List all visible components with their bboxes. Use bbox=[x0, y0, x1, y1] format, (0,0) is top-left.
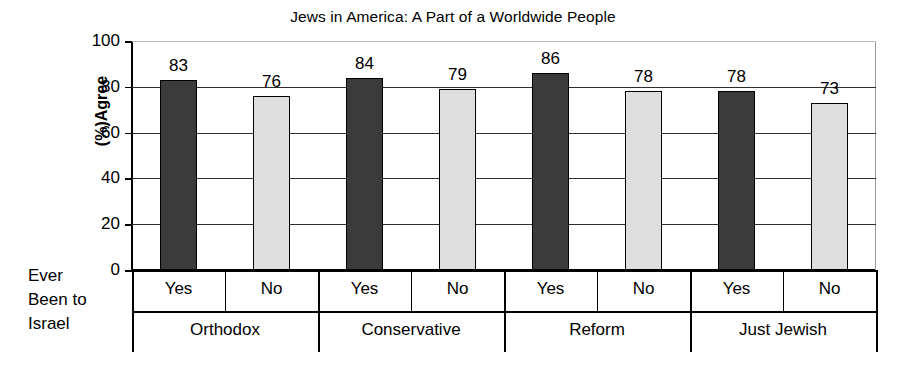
bar-orthodox-yes bbox=[160, 80, 197, 270]
gridline-80 bbox=[132, 87, 876, 88]
group-label-orthodox: Orthodox bbox=[190, 320, 260, 340]
bar-just-jewish-no bbox=[811, 103, 848, 270]
bar-just-jewish-yes bbox=[718, 91, 755, 270]
y-tick-mark-100 bbox=[125, 41, 132, 43]
cell-divider-5 bbox=[597, 270, 598, 311]
group-divider-0 bbox=[132, 270, 134, 352]
answer-label-just-jewish-no: No bbox=[819, 279, 841, 299]
cell-divider-7 bbox=[783, 270, 784, 311]
y-axis-label: (%)Agree bbox=[93, 51, 115, 171]
answer-label-orthodox-yes: Yes bbox=[165, 279, 193, 299]
bar-value-orthodox-yes: 83 bbox=[169, 56, 188, 76]
group-divider-6 bbox=[690, 270, 692, 352]
gridline-60 bbox=[132, 133, 876, 134]
cell-divider-3 bbox=[411, 270, 412, 311]
bar-value-reform-no: 78 bbox=[634, 67, 653, 87]
row-header-line-1: Ever bbox=[28, 264, 128, 288]
y-tick-mark-80 bbox=[125, 87, 132, 89]
answer-label-conservative-yes: Yes bbox=[351, 279, 379, 299]
y-tick-mark-60 bbox=[125, 133, 132, 135]
bar-value-orthodox-no: 76 bbox=[262, 72, 281, 92]
y-tick-mark-40 bbox=[125, 178, 132, 180]
y-tick-label-100: 100 bbox=[60, 31, 120, 51]
bar-conservative-yes bbox=[346, 78, 383, 270]
group-label-reform: Reform bbox=[569, 320, 625, 340]
y-tick-label-40: 40 bbox=[60, 168, 120, 188]
group-divider-2 bbox=[318, 270, 320, 352]
answer-label-conservative-no: No bbox=[447, 279, 469, 299]
chart-title: Jews in America: A Part of a Worldwide P… bbox=[0, 8, 906, 26]
bar-value-reform-yes: 86 bbox=[541, 49, 560, 69]
y-tick-mark-20 bbox=[125, 224, 132, 226]
cell-divider-1 bbox=[225, 270, 226, 311]
group-label-conservative: Conservative bbox=[361, 320, 460, 340]
row-header-ever-been-to-israel: EverBeen toIsrael bbox=[28, 264, 128, 336]
gridline-100 bbox=[132, 41, 876, 42]
category-table: YesNoYesNoYesNoYesNo OrthodoxConservativ… bbox=[132, 270, 877, 352]
bar-conservative-no bbox=[439, 89, 476, 270]
bar-value-just-jewish-no: 73 bbox=[820, 79, 839, 99]
row-header-line-3: Israel bbox=[28, 312, 128, 336]
y-tick-label-60: 60 bbox=[60, 123, 120, 143]
answer-label-reform-yes: Yes bbox=[537, 279, 565, 299]
answer-label-reform-no: No bbox=[633, 279, 655, 299]
group-label-just-jewish: Just Jewish bbox=[739, 320, 827, 340]
gridline-40 bbox=[132, 178, 876, 179]
bar-value-just-jewish-yes: 78 bbox=[727, 67, 746, 87]
plot-right-border bbox=[875, 41, 876, 270]
plot-area: 8376847986787873 bbox=[132, 41, 876, 270]
bar-reform-no bbox=[625, 91, 662, 270]
row-header-line-2: Been to bbox=[28, 288, 128, 312]
gridline-20 bbox=[132, 224, 876, 225]
group-divider-4 bbox=[504, 270, 506, 352]
y-tick-label-20: 20 bbox=[60, 214, 120, 234]
y-axis-line bbox=[131, 41, 133, 270]
bar-value-conservative-no: 79 bbox=[448, 65, 467, 85]
answer-label-orthodox-no: No bbox=[261, 279, 283, 299]
bar-reform-yes bbox=[532, 73, 569, 270]
answer-label-just-jewish-yes: Yes bbox=[723, 279, 751, 299]
y-tick-label-80: 80 bbox=[60, 77, 120, 97]
bar-value-conservative-yes: 84 bbox=[355, 54, 374, 74]
bar-chart: Jews in America: A Part of a Worldwide P… bbox=[0, 0, 906, 383]
bar-orthodox-no bbox=[253, 96, 290, 270]
group-divider-8 bbox=[876, 270, 878, 352]
